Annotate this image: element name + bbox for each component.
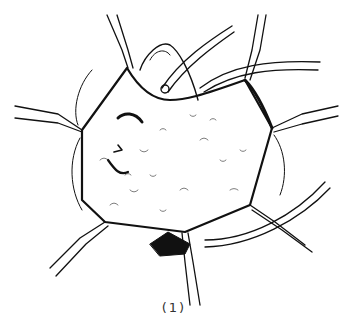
tissue-outline [82,68,272,232]
retractor-top-left [107,15,133,68]
retractor-top-right [245,15,266,80]
surgical-illustration [0,0,348,327]
figure-caption: (1) [0,300,348,315]
drain-tube [162,26,232,88]
retractor-left [15,106,82,132]
retractor-bottom-left [50,222,108,276]
illustration-drawing [0,0,348,327]
retractor-right [272,106,338,132]
